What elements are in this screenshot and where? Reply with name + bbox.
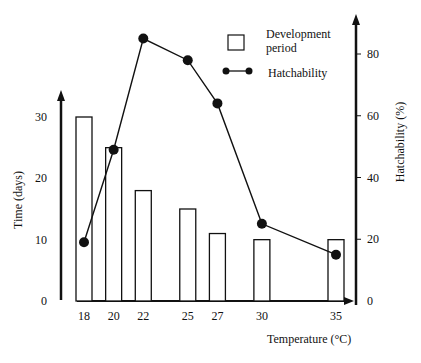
right-tick-label: 0 [367,294,373,308]
x-axis-arrow-icon [344,297,354,305]
data-point [212,98,222,108]
left-tick-label: 10 [35,233,47,247]
left-axis-ticks: 0102030 [35,110,47,308]
right-tick-label: 60 [367,109,379,123]
right-tick-label: 20 [367,232,379,246]
right-axis-arrow-icon [352,14,360,25]
left-tick-label: 0 [41,294,47,308]
right-axis-ticks: 020406080 [356,47,379,308]
data-point [183,55,193,65]
x-title: Temperature (°C) [267,332,351,346]
x-tick-label: 25 [182,309,194,323]
legend-open-square-icon [228,35,244,50]
x-tick-label: 18 [78,309,90,323]
x-tick-label: 22 [137,309,149,323]
development-period-bars [76,117,344,301]
y-right-title: Hatchability (%) [393,102,407,182]
data-point [138,34,148,44]
left-tick-label: 30 [35,110,47,124]
data-point [257,219,267,229]
y-left-title: Time (days) [11,171,25,229]
right-tick-label: 80 [367,47,379,61]
bar [106,148,122,301]
bar [254,240,270,301]
x-tick-label: 20 [108,309,120,323]
right-tick-label: 40 [367,171,379,185]
bar [328,240,344,301]
chart: 0102030 020406080 18202225273035 Time (d… [0,0,421,363]
bar [76,117,92,301]
data-point [109,145,119,155]
legend-bar-label-line2: period [266,41,297,55]
bar [135,191,151,301]
left-axis-arrow-icon [57,90,65,101]
legend-line-label: Hatchability [268,66,327,80]
x-axis-ticks: 18202225273035 [78,309,342,323]
left-tick-label: 20 [35,171,47,185]
data-point [79,237,89,247]
bar [180,209,196,301]
x-tick-label: 27 [211,309,223,323]
bar [209,234,225,301]
x-tick-label: 35 [330,309,342,323]
legend-bar-label-line1: Development [266,27,331,41]
legend: Development period Hatchability [223,27,332,80]
data-point [331,250,341,260]
x-tick-label: 30 [256,309,268,323]
